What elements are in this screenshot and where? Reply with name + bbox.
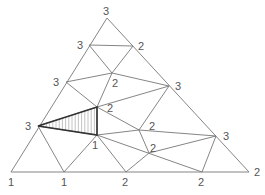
edge [139, 130, 149, 153]
vertex-label: 2 [112, 77, 118, 89]
vertex-label: 1 [61, 176, 67, 188]
edge [97, 130, 139, 135]
vertex-label: 2 [198, 176, 204, 188]
vertex-label: 2 [138, 40, 144, 52]
vertex-label: 2 [122, 176, 128, 188]
vertex-label: 3 [223, 130, 229, 142]
sperner-triangulation-diagram: 33223323122311222 [0, 0, 265, 195]
edge [97, 107, 139, 130]
edge [66, 82, 97, 107]
vertex-label: 3 [25, 120, 31, 132]
vertex-label: 3 [103, 5, 109, 17]
vertex-label: 1 [92, 139, 98, 151]
edge [112, 73, 169, 86]
vertex-label: 2 [149, 120, 155, 132]
vertex-label: 3 [77, 39, 83, 51]
vertex-label: 3 [175, 80, 181, 92]
edge [112, 46, 133, 73]
vertex-label: 2 [254, 166, 260, 178]
edge [89, 45, 133, 46]
edge [149, 136, 216, 153]
vertex-label: 3 [53, 76, 59, 88]
edge [126, 153, 149, 172]
edge [66, 73, 112, 82]
edge [202, 136, 216, 172]
edge [107, 18, 249, 172]
edge [38, 126, 64, 172]
vertex-label: 1 [8, 176, 14, 188]
edge [89, 45, 112, 73]
vertex-label: 2 [107, 102, 113, 114]
vertex-label: 2 [150, 142, 156, 154]
triangulation-edges [11, 18, 249, 172]
